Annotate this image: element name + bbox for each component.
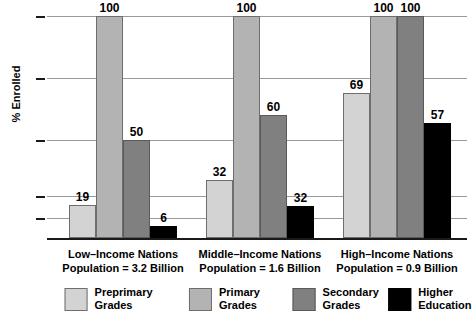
y-axis-tick-mark (36, 218, 45, 220)
bar-value-label: 50 (117, 125, 156, 139)
x-axis-baseline (47, 238, 467, 240)
legend-item[interactable]: Higher Education (388, 286, 471, 312)
group-population: Population = 0.9 Billion (307, 261, 476, 275)
bar-value-label: 100 (90, 1, 129, 15)
legend-color-swatch (293, 288, 316, 311)
bar (233, 16, 260, 238)
legend-color-swatch (65, 288, 88, 311)
bar-value-label: 32 (281, 191, 320, 205)
bar-value-label: 100 (227, 1, 266, 15)
bar (343, 93, 370, 238)
bar (260, 115, 287, 238)
y-axis-tick-mark (36, 140, 45, 142)
bar-value-label: 100 (391, 1, 430, 15)
legend-color-swatch (388, 288, 411, 311)
y-axis-tick-mark (36, 78, 45, 80)
y-axis-tick-mark (36, 16, 45, 18)
y-axis-title: % Enrolled (10, 54, 22, 134)
y-axis-tick-mark (36, 196, 45, 198)
bar (397, 16, 424, 238)
legend-color-swatch (189, 288, 212, 311)
bar (206, 180, 233, 238)
legend-label: Primary Grades (219, 286, 260, 312)
x-axis-group-caption: High–Income NationsPopulation = 0.9 Bill… (307, 247, 476, 275)
bar-value-label: 60 (254, 100, 293, 114)
group-name: High–Income Nations (307, 247, 476, 261)
plot-area: 191005063210060326910010057 (47, 16, 467, 238)
bar-value-label: 6 (144, 211, 183, 225)
bar (424, 123, 451, 238)
legend-label: Secondary Grades (323, 286, 379, 312)
bar-chart: % Enrolled 10075502510 19100506321006032… (0, 0, 476, 320)
chart-legend: Preprimary GradesPrimary GradesSecondary… (0, 286, 476, 320)
legend-label: Preprimary Grades (95, 286, 153, 312)
legend-item[interactable]: Preprimary Grades (65, 286, 153, 312)
legend-item[interactable]: Secondary Grades (293, 286, 379, 312)
legend-item[interactable]: Primary Grades (189, 286, 260, 312)
bar (150, 226, 177, 238)
bar (69, 205, 96, 238)
legend-label: Higher Education (418, 286, 471, 312)
bar-value-label: 57 (418, 108, 457, 122)
bar (287, 206, 314, 238)
bar (370, 16, 397, 238)
